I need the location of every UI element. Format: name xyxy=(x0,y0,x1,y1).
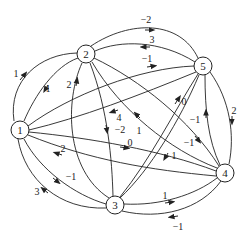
node-1: 1 xyxy=(11,121,29,139)
node-label-4: 4 xyxy=(222,167,228,179)
edge-4-5 xyxy=(205,75,220,165)
node-label-2: 2 xyxy=(83,48,89,60)
edge-label-4-5: −1 xyxy=(190,114,201,125)
edge-3-2 xyxy=(71,63,109,198)
edge-label-1-4: 0 xyxy=(128,137,133,148)
edge-label-4-3: −1 xyxy=(173,221,184,232)
node-label-5: 5 xyxy=(200,60,206,72)
node-5: 5 xyxy=(194,57,212,75)
edge-label-5-2: 3 xyxy=(150,34,155,45)
edge-label-5-1: 4 xyxy=(117,112,122,123)
edge-2-1 xyxy=(24,58,78,121)
edge-label-2-5: −2 xyxy=(141,14,152,25)
edge-label-4-2: 1 xyxy=(137,125,142,136)
node-label-3: 3 xyxy=(112,199,118,211)
edge-label-1-2: 1 xyxy=(14,68,19,79)
edge-label-3-2: 2 xyxy=(67,79,72,90)
edge-label-2-3: −2 xyxy=(115,124,126,135)
edge-label-4-1: 2 xyxy=(61,143,66,154)
node-3: 3 xyxy=(106,196,124,214)
edge-label-3-4: 1 xyxy=(163,190,168,201)
edge-label-3-5: 0 xyxy=(182,96,187,107)
node-label-1: 1 xyxy=(17,124,23,136)
edge-2-3 xyxy=(90,63,113,196)
node-2: 2 xyxy=(77,45,95,63)
graph-canvas: 1 1 2 −2 3 −1 4 −2 1 0 0 −1 −1 2 1 2 −1 … xyxy=(0,0,250,242)
edge-label-1-5: −1 xyxy=(142,53,153,64)
edge-label-2-1: 1 xyxy=(46,83,51,94)
edge-label-3-1: 3 xyxy=(35,186,40,197)
edge-3-4 xyxy=(124,178,217,204)
edge-label-1-3: −1 xyxy=(66,171,77,182)
edge-5-4 xyxy=(210,72,231,164)
edge-label-5-3: 1 xyxy=(172,150,177,161)
edge-label-5-4: 2 xyxy=(232,105,237,116)
edge-4-3 xyxy=(122,181,221,214)
node-4: 4 xyxy=(216,164,234,182)
edge-label-2-4: −1 xyxy=(184,137,195,148)
edge-5-1 xyxy=(29,72,196,130)
